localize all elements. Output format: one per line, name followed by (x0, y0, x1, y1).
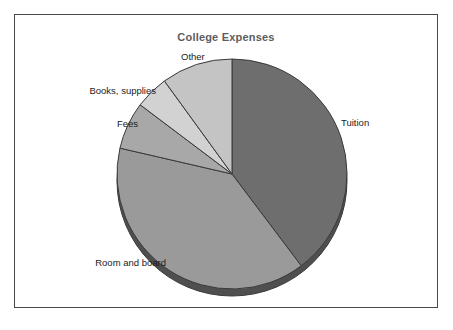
pie-label-books-supplies: Books, supplies (26, 86, 156, 96)
pie-label-room-and-board: Room and board (26, 258, 166, 268)
pie-chart: Other Books, supplies Fees Room and boar… (0, 0, 453, 330)
pie-label-tuition: Tuition (341, 118, 369, 128)
pie-chart-svg (0, 0, 453, 330)
pie-label-other: Other (181, 52, 205, 62)
pie-label-fees: Fees (26, 119, 138, 129)
